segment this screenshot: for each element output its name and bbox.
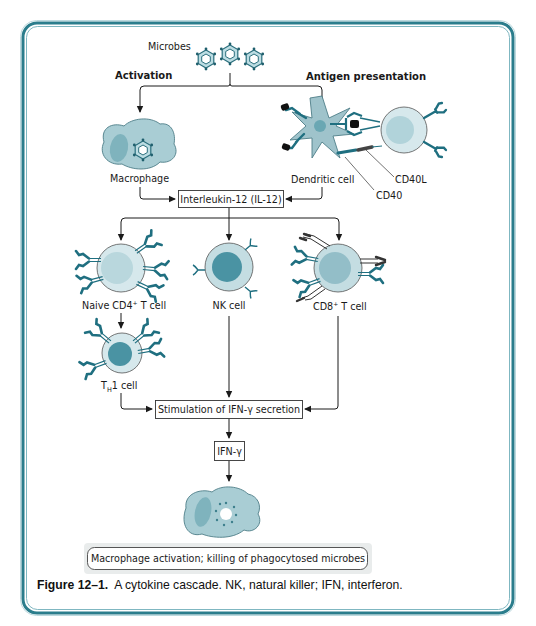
activation-heading: Activation xyxy=(115,70,172,81)
frame-outer-glow xyxy=(21,21,516,616)
th1-cell-icon xyxy=(79,319,164,379)
activated-macrophage-icon xyxy=(184,487,260,537)
dendritic-cell-label: Dendritic cell xyxy=(291,174,354,185)
outcome-label: Macrophage activation; killing of phagoc… xyxy=(91,553,365,564)
il12-box: Interleukin-12 (IL-12) xyxy=(179,191,284,208)
cd8-t-cell-label: CD8+ T cell xyxy=(313,300,367,312)
microbes-label: Microbes xyxy=(148,41,191,52)
ifn-gamma-label: IFN-γ xyxy=(217,446,242,457)
arrow-to-cd8 xyxy=(335,218,339,240)
frame-inner-border xyxy=(27,27,510,610)
arrow-to-dendritic xyxy=(230,84,322,112)
cd40l-leader xyxy=(366,150,394,177)
naive-cd4-t-cell-icon xyxy=(76,230,169,301)
figure-panel: Microbes Activation Antigen presentation… xyxy=(0,0,536,626)
macrophage-icon xyxy=(102,119,176,169)
arrow-dendritic-to-il12 xyxy=(286,187,322,199)
cytokine-cascade-diagram: Microbes Activation Antigen presentation… xyxy=(0,0,536,626)
outcome-box: Macrophage activation; killing of phagoc… xyxy=(84,543,372,574)
arrow-cd8-to-stimulation xyxy=(305,316,338,409)
t-cell-icon xyxy=(381,102,446,158)
nk-cell-label: NK cell xyxy=(212,300,245,311)
antigen-presentation-heading: Antigen presentation xyxy=(306,71,426,82)
cd8-t-cell-icon xyxy=(292,234,385,301)
figure-number: Figure 12–1. xyxy=(37,578,108,592)
microbes-icon xyxy=(196,43,264,71)
cd40l-label: CD40L xyxy=(395,174,427,185)
cd40-label: CD40 xyxy=(376,190,402,201)
stimulation-label: Stimulation of IFN-γ secretion xyxy=(158,404,300,415)
naive-cd4-label: Naive CD4+ T cell xyxy=(82,299,166,311)
figure-caption-text: A cytokine cascade. NK, natural killer; … xyxy=(114,578,403,592)
stimulation-box: Stimulation of IFN-γ secretion xyxy=(156,401,303,419)
il12-label: Interleukin-12 (IL-12) xyxy=(180,194,281,205)
arrow-macrophage-to-il12 xyxy=(140,187,175,199)
arrow-to-naive-cd4 xyxy=(121,218,125,240)
ifn-gamma-box: IFN-γ xyxy=(215,442,245,461)
figure-caption: Figure 12–1.A cytokine cascade. NK, natu… xyxy=(37,578,403,592)
th1-cell-label: TH1 cell xyxy=(100,380,137,394)
nk-cell-icon xyxy=(193,238,257,298)
dendritic-cell-icon xyxy=(280,96,382,158)
arrow-th1-to-stimulation xyxy=(121,393,152,409)
macrophage-label: Macrophage xyxy=(110,173,169,184)
